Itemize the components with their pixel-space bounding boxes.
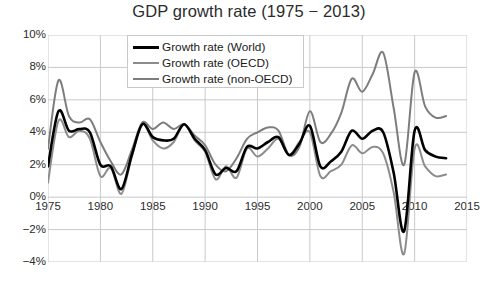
legend-label-non-oecd: Growth rate (non-OECD) <box>162 71 292 87</box>
legend-item-non-oecd: Growth rate (non-OECD) <box>133 71 299 87</box>
legend-item-world: Growth rate (World) <box>133 39 299 55</box>
chart-figure: GDP growth rate (1975 − 2013) 10%8%6%4%2… <box>0 0 498 281</box>
legend-label-oecd: Growth rate (OECD) <box>162 55 269 71</box>
legend-swatch-oecd <box>133 62 159 64</box>
legend-swatch-world <box>133 46 159 49</box>
chart-legend: Growth rate (World) Growth rate (OECD) G… <box>127 35 304 88</box>
legend-swatch-non-oecd <box>133 78 159 80</box>
legend-item-oecd: Growth rate (OECD) <box>133 55 299 71</box>
legend-label-world: Growth rate (World) <box>162 39 265 55</box>
